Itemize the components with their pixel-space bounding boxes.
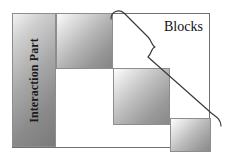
block-four — [170, 118, 211, 152]
interaction-part-block — [12, 13, 56, 147]
diagram-canvas: Interaction Part Blocks — [0, 0, 231, 161]
block-three — [113, 68, 170, 125]
block-two — [56, 13, 113, 69]
blocks-label: Blocks — [164, 19, 203, 35]
